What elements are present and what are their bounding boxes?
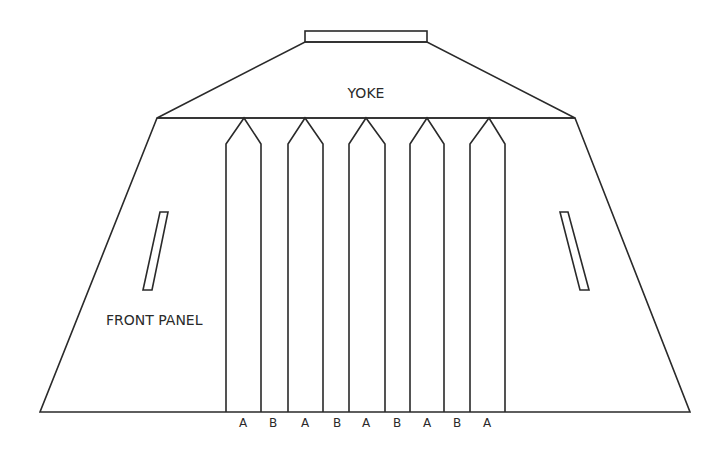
pleat-strip-4 xyxy=(410,118,444,412)
front-panel-label: FRONT PANEL xyxy=(106,312,203,328)
left-pocket-slit xyxy=(143,212,168,290)
pleat-label: A xyxy=(483,416,492,430)
pleat-strip-1 xyxy=(226,118,261,412)
yoke-label: YOKE xyxy=(347,85,385,101)
pattern-diagram: YOKE FRONT PANEL A B A B A B A B A xyxy=(0,0,726,454)
pleat-strip-3 xyxy=(349,118,385,412)
pleat-label: A xyxy=(239,416,248,430)
right-pocket-slit xyxy=(560,212,589,290)
pleat-label: A xyxy=(301,416,310,430)
front-panel-piece xyxy=(40,118,690,412)
collar-band xyxy=(305,31,427,42)
pleat-label: B xyxy=(393,416,401,430)
pleat-strip-5 xyxy=(470,118,505,412)
pleat-label: A xyxy=(362,416,371,430)
pleat-label: A xyxy=(423,416,432,430)
pleat-label: B xyxy=(333,416,341,430)
pleat-strip-2 xyxy=(288,118,323,412)
pleat-label: B xyxy=(453,416,461,430)
yoke-piece xyxy=(157,42,575,118)
pleat-label: B xyxy=(269,416,277,430)
